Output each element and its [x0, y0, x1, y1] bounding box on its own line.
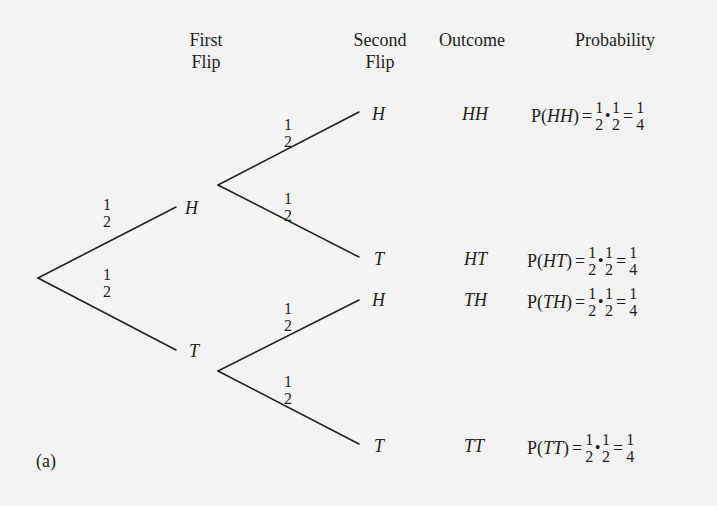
header-first-flip-line2: Flip — [170, 51, 242, 73]
equals-sign: = — [582, 106, 592, 127]
fraction-denominator: 2 — [612, 116, 620, 133]
fraction-factor-1: 12 — [595, 99, 603, 133]
branch-prob-first-h: 1 2 — [103, 196, 111, 230]
fraction-denominator: 4 — [636, 116, 644, 133]
prob-p: P( — [527, 438, 543, 458]
tree-diagram-figure: First Flip Second Flip Outcome Probabili… — [0, 0, 717, 506]
prob-lhs: P(HT) — [527, 251, 572, 272]
header-second-flip-line2: Flip — [344, 51, 416, 73]
branch-prob-ht: 1 2 — [284, 190, 292, 224]
fraction-result: 14 — [626, 431, 634, 465]
fraction-denominator: 2 — [602, 448, 610, 465]
header-first-flip: First Flip — [170, 29, 242, 73]
equals-sign: = — [575, 292, 585, 313]
equals-sign: = — [572, 438, 582, 459]
node-second-th: H — [372, 290, 385, 310]
fraction-numerator: 1 — [605, 285, 613, 302]
prob-p: P( — [527, 292, 543, 312]
node-second-ht: T — [374, 249, 384, 269]
fraction-numerator: 1 — [284, 190, 292, 207]
branch-prob-hh: 1 2 — [284, 116, 292, 150]
fraction-numerator: 1 — [284, 300, 292, 317]
fraction-factor-1: 12 — [585, 431, 593, 465]
fraction-numerator: 1 — [585, 431, 593, 448]
fraction-denominator: 4 — [626, 448, 634, 465]
fraction-numerator: 1 — [626, 431, 634, 448]
fraction-result: 14 — [629, 244, 637, 278]
multiply-dot: • — [598, 294, 603, 310]
fraction-factor-1: 12 — [588, 285, 596, 319]
fraction-numerator: 1 — [103, 196, 111, 213]
fraction-denominator: 2 — [103, 213, 111, 230]
prob-close: ) — [566, 292, 572, 312]
fraction-denominator: 2 — [588, 302, 596, 319]
prob-close: ) — [573, 106, 579, 126]
fraction-numerator: 1 — [284, 373, 292, 390]
fraction-denominator: 2 — [585, 448, 593, 465]
fraction-denominator: 2 — [605, 261, 613, 278]
fraction-numerator: 1 — [103, 266, 111, 283]
equals-sign: = — [616, 251, 626, 272]
fraction-factor-2: 12 — [605, 285, 613, 319]
multiply-dot: • — [605, 108, 610, 124]
branch-prob-tt: 1 2 — [284, 373, 292, 407]
equals-sign: = — [575, 251, 585, 272]
fraction-numerator: 1 — [602, 431, 610, 448]
prob-event: TH — [543, 292, 566, 312]
prob-close: ) — [563, 438, 569, 458]
fraction-denominator: 4 — [629, 302, 637, 319]
probability-formula-ht: P(HT) = 12 • 12 = 14 — [527, 241, 637, 281]
branch-prob-first-t: 1 2 — [103, 266, 111, 300]
figure-caption: (a) — [36, 451, 56, 472]
fraction-numerator: 1 — [588, 244, 596, 261]
header-probability: Probability — [560, 29, 670, 51]
outcome-ht: HT — [464, 249, 487, 269]
node-first-h: H — [185, 198, 198, 218]
fraction-numerator: 1 — [595, 99, 603, 116]
probability-formula-tt: P(TT) = 12 • 12 = 14 — [527, 428, 634, 468]
fraction-denominator: 4 — [629, 261, 637, 278]
multiply-dot: • — [598, 253, 603, 269]
fraction-denominator: 2 — [605, 302, 613, 319]
header-second-flip-line1: Second — [344, 29, 416, 51]
prob-p: P( — [531, 106, 547, 126]
probability-formula-hh: P(HH) = 12 • 12 = 14 — [531, 96, 644, 136]
prob-event: HT — [543, 251, 566, 271]
fraction-result: 14 — [629, 285, 637, 319]
node-second-hh: H — [372, 104, 385, 124]
prob-lhs: P(TH) — [527, 292, 572, 313]
equals-sign: = — [616, 292, 626, 313]
fraction-denominator: 2 — [284, 317, 292, 334]
header-second-flip: Second Flip — [344, 29, 416, 73]
equals-sign: = — [623, 106, 633, 127]
fraction-numerator: 1 — [605, 244, 613, 261]
prob-close: ) — [566, 251, 572, 271]
multiply-dot: • — [595, 440, 600, 456]
fraction-numerator: 1 — [612, 99, 620, 116]
fraction-numerator: 1 — [629, 285, 637, 302]
fraction-numerator: 1 — [588, 285, 596, 302]
fraction-factor-2: 12 — [605, 244, 613, 278]
header-first-flip-line1: First — [170, 29, 242, 51]
fraction-numerator: 1 — [629, 244, 637, 261]
node-second-tt: T — [374, 436, 384, 456]
outcome-tt: TT — [464, 436, 484, 456]
prob-lhs: P(HH) — [531, 106, 579, 127]
probability-formula-th: P(TH) = 12 • 12 = 14 — [527, 282, 637, 322]
fraction-numerator: 1 — [284, 116, 292, 133]
fraction-denominator: 2 — [284, 390, 292, 407]
fraction-denominator: 2 — [284, 133, 292, 150]
fraction-denominator: 2 — [284, 207, 292, 224]
fraction-numerator: 1 — [636, 99, 644, 116]
prob-p: P( — [527, 251, 543, 271]
fraction-factor-2: 12 — [612, 99, 620, 133]
outcome-hh: HH — [462, 104, 488, 124]
equals-sign: = — [613, 438, 623, 459]
prob-event: HH — [547, 106, 573, 126]
fraction-denominator: 2 — [103, 283, 111, 300]
fraction-result: 14 — [636, 99, 644, 133]
node-first-t: T — [189, 341, 199, 361]
fraction-factor-2: 12 — [602, 431, 610, 465]
fraction-denominator: 2 — [588, 261, 596, 278]
header-outcome: Outcome — [432, 29, 512, 51]
